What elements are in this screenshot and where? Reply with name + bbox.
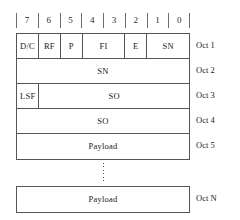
field-sn: SN: [17, 59, 189, 83]
octet-row: D/CRFPFIESN: [17, 34, 189, 59]
octet-row: Payload: [17, 187, 189, 212]
octet-row: SO: [17, 109, 189, 134]
field-payload: Payload: [17, 134, 189, 159]
ellipsis-dot: [103, 180, 104, 181]
bit-label-0: 0: [168, 11, 190, 30]
octet-label-oct-2: Oct 2: [196, 58, 240, 83]
bit-label-4: 4: [81, 11, 103, 30]
octet-label-oct-3: Oct 3: [196, 83, 240, 108]
field-rf: RF: [39, 34, 61, 58]
field-payload: Payload: [17, 187, 189, 212]
bit-label-1: 1: [147, 11, 169, 30]
octet-label-oct-1: Oct 1: [196, 33, 240, 58]
bit-label-6: 6: [38, 11, 60, 30]
pdu-format-diagram: 76543210 D/CRFPFIESNSNLSFSOSOPayload Pay…: [0, 0, 240, 220]
octet-row: Payload: [17, 134, 189, 159]
tail-octet-block: Payload: [16, 186, 190, 213]
field-so: SO: [17, 109, 189, 133]
bit-label-2: 2: [125, 11, 147, 30]
field-d-c: D/C: [17, 34, 39, 58]
ellipsis-dot: [103, 166, 104, 167]
ellipsis-dot: [103, 163, 104, 164]
vertical-ellipsis-icon: [101, 163, 105, 181]
bit-label-5: 5: [60, 11, 82, 30]
ellipsis-dot: [103, 173, 104, 174]
bit-label-7: 7: [16, 11, 38, 30]
octet-row: LSFSO: [17, 84, 189, 109]
field-e: E: [125, 34, 147, 58]
octet-label-oct-4: Oct 4: [196, 108, 240, 133]
bit-position-ruler: 76543210: [16, 11, 190, 30]
ellipsis-dot: [103, 177, 104, 178]
field-lsf: LSF: [17, 84, 39, 108]
octet-label-oct-5: Oct 5: [196, 133, 240, 158]
bit-label-3: 3: [103, 11, 125, 30]
field-so: SO: [39, 84, 189, 108]
octet-row: SN: [17, 59, 189, 84]
header-octet-block: D/CRFPFIESNSNLSFSOSOPayload: [16, 33, 190, 160]
field-sn: SN: [147, 34, 189, 58]
field-p: P: [61, 34, 83, 58]
ellipsis-dot: [103, 170, 104, 171]
field-fi: FI: [83, 34, 126, 58]
octet-label-oct-n: Oct N: [196, 186, 240, 211]
